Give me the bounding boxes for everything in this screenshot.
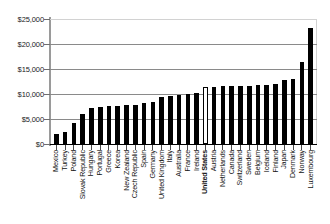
- bar: [221, 86, 226, 144]
- bar: [72, 123, 77, 144]
- x-tick-label: Spain: [140, 150, 147, 168]
- bar-slot: [140, 19, 149, 144]
- bar: [229, 86, 234, 144]
- bar-slot: [289, 19, 298, 144]
- bar: [177, 95, 182, 145]
- bar-slot: [183, 19, 192, 144]
- x-label-slot: Luxembourg: [306, 150, 315, 224]
- x-tick-label: Germany: [149, 150, 156, 179]
- x-tick-label: Denmark: [289, 150, 296, 178]
- x-tick-label: Slovak Republic: [79, 150, 86, 199]
- x-tick-label: Greece: [105, 150, 112, 173]
- bar-chart: $25,000 $20,000 $15,000 $10,000 $5,000 $…: [0, 0, 330, 224]
- bar-group: [50, 19, 317, 144]
- x-tick-label: Poland: [70, 150, 77, 171]
- bar-slot: [280, 19, 289, 144]
- x-label-slot: Czech Republic: [131, 150, 140, 224]
- bar-slot: [271, 19, 280, 144]
- bar-slot: [122, 19, 131, 144]
- x-label-slot: Austria: [210, 150, 219, 224]
- bar-slot: [157, 19, 166, 144]
- x-label-slot: Denmark: [289, 150, 298, 224]
- x-label-slot: Korea: [113, 150, 122, 224]
- x-tick-label: Turkey: [62, 150, 69, 171]
- bar-slot: [192, 19, 201, 144]
- x-tick-label: Japan: [281, 150, 288, 169]
- bar: [107, 106, 112, 144]
- x-tick-label: Luxembourg: [307, 150, 314, 188]
- x-tick-label: Sweden: [246, 150, 253, 175]
- x-tick-label: Netherlands: [219, 150, 226, 187]
- bar-slot: [210, 19, 219, 144]
- x-label-slot: Germany: [148, 150, 157, 224]
- bar: [124, 105, 129, 144]
- x-label-slot: Italy: [166, 150, 175, 224]
- bar: [54, 134, 59, 144]
- bar-slot: [236, 19, 245, 144]
- y-tick-label-10000: $10,000: [0, 90, 44, 99]
- bar: [247, 86, 252, 145]
- x-label-slot: Turkey: [61, 150, 70, 224]
- x-label-slot: Portugal: [96, 150, 105, 224]
- bar-slot: [78, 19, 87, 144]
- x-tick-label: Canada: [228, 150, 235, 174]
- bar: [291, 79, 296, 144]
- x-tick-label: France: [184, 150, 191, 171]
- x-tick-label: Korea: [114, 150, 121, 168]
- bar: [273, 84, 278, 144]
- x-axis-tick-labels: MexicoTurkeyPolandSlovak RepublicHungary…: [50, 150, 317, 224]
- x-tick-label: United Kingdom: [158, 150, 165, 199]
- x-tick-label: Italy: [167, 150, 174, 162]
- bar: [264, 85, 269, 144]
- bar-slot: [105, 19, 114, 144]
- x-label-slot: France: [183, 150, 192, 224]
- x-tick-label: Iceland: [263, 150, 270, 172]
- x-label-slot: Iceland: [262, 150, 271, 224]
- bar: [300, 62, 305, 145]
- x-tick-label: Norway: [298, 150, 305, 173]
- y-tick-label-5000: $5,000: [0, 115, 44, 124]
- bar-slot: [113, 19, 122, 144]
- x-label-slot: Greece: [105, 150, 114, 224]
- bar: [115, 106, 120, 145]
- x-tick-label: United States: [202, 150, 209, 194]
- bar-slot: [175, 19, 184, 144]
- bar: [212, 87, 217, 145]
- bar-slot: [297, 19, 306, 144]
- bar-slot: [131, 19, 140, 144]
- bar: [282, 80, 287, 144]
- bar: [159, 97, 164, 144]
- plot-area: [50, 19, 317, 144]
- x-label-slot: Norway: [297, 150, 306, 224]
- x-tick-label: New Zealand: [123, 150, 130, 191]
- x-tick-label: Portugal: [97, 150, 104, 176]
- x-label-slot: Spain: [140, 150, 149, 224]
- bar: [142, 103, 147, 144]
- y-tick-label-0: $0: [0, 140, 44, 149]
- bar-slot: [306, 19, 315, 144]
- x-tick-label: Switzerland: [237, 150, 244, 186]
- x-tick-label: Mexico: [53, 150, 60, 172]
- bar-slot: [166, 19, 175, 144]
- x-tick-label: Australia: [175, 150, 182, 177]
- x-tick-label: Ireland: [193, 150, 200, 171]
- bar: [256, 85, 261, 144]
- x-label-slot: Netherlands: [219, 150, 228, 224]
- bar: [133, 105, 138, 144]
- bar-slot: [148, 19, 157, 144]
- bar: [308, 28, 313, 144]
- bar-slot: [262, 19, 271, 144]
- bar: [238, 86, 243, 145]
- x-tick-label: Hungary: [88, 150, 95, 176]
- bar-slot: [254, 19, 263, 144]
- x-label-slot: Sweden: [245, 150, 254, 224]
- bar-slot: [245, 19, 254, 144]
- bar: [203, 87, 208, 144]
- bar-slot: [70, 19, 79, 144]
- bar: [151, 102, 156, 144]
- x-tick-label: Belgium: [254, 150, 261, 175]
- bar-slot: [96, 19, 105, 144]
- x-label-slot: Poland: [70, 150, 79, 224]
- bar: [186, 94, 191, 145]
- y-tick-label-25000: $25,000: [0, 15, 44, 24]
